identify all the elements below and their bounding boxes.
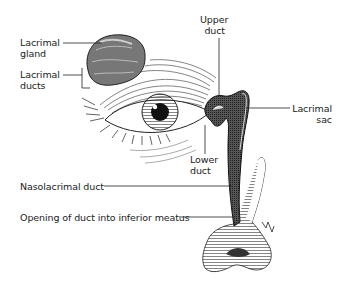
label-line: duct (200, 25, 225, 36)
label-lacrimal-gland: Lacrimal gland (20, 37, 60, 59)
lacrimal-gland-shape (87, 35, 145, 85)
label-lower-duct: Lower duct (190, 154, 218, 176)
label-line: sac (290, 114, 332, 125)
label-opening-inferior-meatus: Opening of duct into inferior meatus (20, 212, 190, 223)
label-lacrimal-ducts: Lacrimal ducts (20, 69, 60, 91)
label-upper-duct: Upper duct (200, 14, 225, 36)
label-line: Lower (190, 154, 218, 165)
label-line: gland (20, 48, 60, 59)
label-line: ducts (20, 80, 60, 91)
label-line: Upper (200, 14, 225, 25)
label-line: duct (190, 165, 218, 176)
label-line: Lacrimal (20, 37, 60, 48)
lower-lid-hatch (130, 140, 196, 163)
label-lacrimal-sac: Lacrimal sac (290, 103, 332, 125)
label-line: Lacrimal (20, 69, 60, 80)
label-line: Lacrimal (290, 103, 332, 114)
label-nasolacrimal-duct: Nasolacrimal duct (20, 181, 104, 192)
